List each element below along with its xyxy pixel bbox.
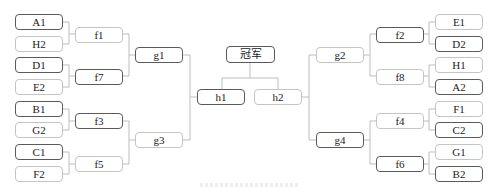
match-node: f3 (75, 113, 123, 129)
team-node: D2 (435, 36, 483, 52)
team-node: G1 (435, 144, 483, 160)
team-node: D1 (15, 57, 63, 73)
match-node: f8 (376, 69, 424, 85)
team-node: B2 (435, 166, 483, 182)
match-node: f4 (376, 113, 424, 129)
semifinal-node: h2 (254, 89, 302, 105)
team-node: E1 (435, 14, 483, 30)
match-node: f5 (75, 156, 123, 172)
faint-caption (200, 183, 300, 187)
team-node: F2 (15, 166, 63, 182)
team-node: H1 (435, 57, 483, 73)
match-node: g3 (135, 132, 183, 148)
team-node: H2 (15, 36, 63, 52)
team-node: A1 (15, 14, 63, 30)
match-node: g1 (135, 47, 183, 63)
match-node: f1 (75, 27, 123, 43)
team-node: C2 (435, 122, 483, 138)
team-node: C1 (15, 144, 63, 160)
match-node: f2 (376, 27, 424, 43)
team-node: E2 (15, 79, 63, 95)
team-node: A2 (435, 79, 483, 95)
team-node: B1 (15, 101, 63, 117)
match-node: g4 (316, 132, 364, 148)
team-node: G2 (15, 122, 63, 138)
champion-node: 冠军 (226, 46, 275, 63)
semifinal-node: h1 (197, 89, 245, 105)
match-node: f7 (75, 69, 123, 85)
team-node: F1 (435, 101, 483, 117)
match-node: f6 (376, 156, 424, 172)
match-node: g2 (316, 47, 364, 63)
